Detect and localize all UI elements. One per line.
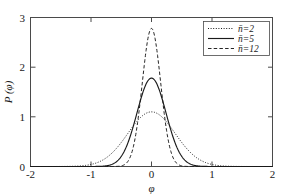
legend-label-nbar-2: n̄=2 — [238, 24, 254, 34]
y-axis-title: P (φ) — [2, 80, 15, 104]
x-tick-label-2: 0 — [149, 168, 155, 180]
legend: n̄=2 n̄=5 n̄=12 — [204, 22, 270, 56]
y-tick-label-0: 0 — [20, 161, 26, 173]
curve-nbar-5 — [31, 78, 273, 166]
chart-canvas: -2 -1 0 1 2 0 1 2 3 φ P (φ) n̄=2 n̄=5 n̄… — [0, 0, 287, 196]
y-tick-label-1: 1 — [20, 111, 26, 123]
x-tick-label-4: 2 — [270, 168, 276, 180]
y-tick-label-3: 3 — [20, 12, 26, 24]
figure-container: -2 -1 0 1 2 0 1 2 3 φ P (φ) n̄=2 n̄=5 n̄… — [0, 0, 287, 196]
x-tick-label-3: 1 — [209, 168, 215, 180]
x-axis-title: φ — [148, 182, 154, 194]
x-tick-label-1: -1 — [86, 168, 95, 180]
x-tick-label-0: -2 — [26, 168, 35, 180]
curve-nbar-2 — [31, 112, 273, 167]
legend-label-nbar-5: n̄=5 — [238, 34, 254, 44]
y-tick-label-2: 2 — [20, 61, 26, 73]
legend-label-nbar-12: n̄=12 — [238, 44, 259, 54]
